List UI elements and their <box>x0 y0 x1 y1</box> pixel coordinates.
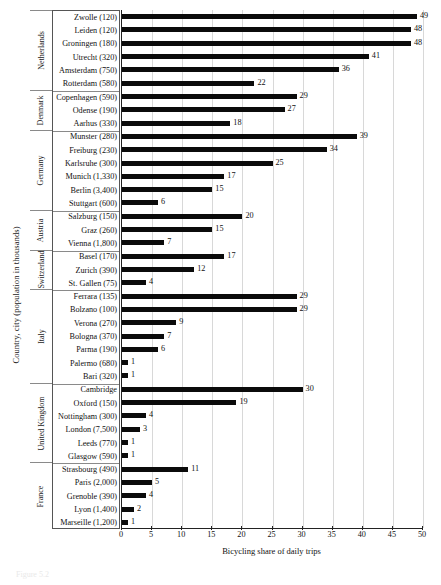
category-label: London (7,500) <box>66 423 117 437</box>
category-label: Bologna (370) <box>69 330 117 344</box>
bar <box>122 107 285 112</box>
category-label: Zurich (390) <box>75 264 117 278</box>
bicycling-share-bar-chart: Country, city (population in thousands) … <box>0 0 441 585</box>
category-label: Karlsruhe (300) <box>65 157 117 171</box>
bar-value-label: 17 <box>227 252 235 260</box>
country-group-label: Switzerland <box>30 250 52 290</box>
bar-value-label: 29 <box>300 292 308 300</box>
gridline <box>363 10 364 528</box>
bar <box>122 187 212 192</box>
bar <box>122 267 194 272</box>
category-label: Salzburg (150) <box>68 210 117 224</box>
country-group-text: Switzerland <box>37 251 46 289</box>
category-label: Bolzano (100) <box>70 303 117 317</box>
bar-value-label: 1 <box>131 438 135 446</box>
x-tick-mark <box>151 526 152 530</box>
bar-value-label: 3 <box>143 425 147 433</box>
x-tick-mark <box>272 526 273 530</box>
x-axis-ticks: 05101520253035404550 <box>121 530 422 544</box>
bar <box>122 307 297 312</box>
country-group-label: Austria <box>30 210 52 250</box>
bar <box>122 347 158 352</box>
bar-value-label: 27 <box>288 105 296 113</box>
x-tick-mark <box>422 526 423 530</box>
country-group-text: Netherlands <box>37 31 46 70</box>
bar-value-label: 34 <box>330 145 338 153</box>
category-label: Leiden (120) <box>74 24 117 38</box>
bar <box>122 174 224 179</box>
bar <box>122 373 128 378</box>
x-tick-label: 30 <box>289 530 315 539</box>
bar <box>122 214 242 219</box>
figure-caption: Figure 5.2 <box>16 570 49 579</box>
category-label: Oxford (150) <box>74 397 117 411</box>
bar <box>122 520 128 525</box>
country-group-label: Denmark <box>30 90 52 130</box>
y-axis-title: Country, city (population in thousands) <box>11 175 21 415</box>
bar-value-label: 15 <box>215 225 223 233</box>
category-label: Groningen (180) <box>62 37 117 51</box>
category-label: Stuttgart (600) <box>69 197 117 211</box>
gridline <box>273 10 274 528</box>
category-label: Basel (170) <box>79 250 117 264</box>
category-label: Marseille (1,200) <box>60 516 117 530</box>
group-separator <box>53 211 119 212</box>
category-label: Utrecht (320) <box>73 51 117 65</box>
bar <box>122 493 146 498</box>
x-tick-label: 35 <box>319 530 345 539</box>
category-label: Paris (2,000) <box>75 476 117 490</box>
bar-value-label: 22 <box>257 79 265 87</box>
bar-value-label: 39 <box>360 132 368 140</box>
category-label: Berlin (3,400) <box>71 184 117 198</box>
bar-value-label: 7 <box>167 332 171 340</box>
bar-value-label: 2 <box>137 505 141 513</box>
category-label: Verona (270) <box>74 317 117 331</box>
bar-value-label: 6 <box>161 345 165 353</box>
gridline <box>303 10 304 528</box>
country-group-text: Austria <box>37 218 46 242</box>
bar <box>122 240 164 245</box>
bar-value-label: 48 <box>414 25 422 33</box>
gridline <box>212 10 213 528</box>
bar-value-label: 20 <box>245 212 253 220</box>
x-tick-label: 40 <box>349 530 375 539</box>
bar <box>122 147 327 152</box>
category-label: Odense (190) <box>73 104 117 118</box>
category-label: Glasgow (590) <box>68 450 117 464</box>
category-label: Grenoble (390) <box>67 490 117 504</box>
category-label: Parma (190) <box>76 343 117 357</box>
bar <box>122 467 188 472</box>
gridline <box>423 10 424 528</box>
country-group-text: France <box>36 485 45 507</box>
bar-value-label: 48 <box>414 39 422 47</box>
x-tick-label: 45 <box>379 530 405 539</box>
category-label: Freiburg (230) <box>69 144 117 158</box>
bar <box>122 81 254 86</box>
bar <box>122 227 212 232</box>
bar <box>122 200 158 205</box>
x-tick-label: 5 <box>138 530 164 539</box>
bar <box>122 67 339 72</box>
bar-value-label: 29 <box>300 92 308 100</box>
category-label: Copenhagen (590) <box>56 91 117 105</box>
x-tick-mark <box>211 526 212 530</box>
bar-value-label: 7 <box>167 238 171 246</box>
bar-value-label: 5 <box>155 478 159 486</box>
group-separator <box>53 463 119 464</box>
x-tick-label: 50 <box>409 530 435 539</box>
x-tick-mark <box>392 526 393 530</box>
x-tick-label: 10 <box>168 530 194 539</box>
country-group-text: United Kingdom <box>37 396 46 450</box>
group-separator <box>53 290 119 291</box>
bar-value-label: 9 <box>179 318 183 326</box>
bar-value-label: 15 <box>215 185 223 193</box>
x-tick-mark <box>181 526 182 530</box>
category-label: Zwolle (120) <box>74 11 117 25</box>
bar <box>122 121 230 126</box>
category-label: Rotterdam (580) <box>63 77 117 91</box>
category-label: Strasbourg (490) <box>62 463 117 477</box>
bar-value-label: 11 <box>191 465 199 473</box>
bar <box>122 400 236 405</box>
bar <box>122 161 273 166</box>
bar-value-label: 36 <box>342 65 350 73</box>
